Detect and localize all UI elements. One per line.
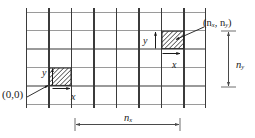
origin-x-axis-label: x xyxy=(71,92,75,102)
nx-dimension-label: nx xyxy=(124,113,132,124)
origin-coordinate-label: (0,0) xyxy=(2,89,23,100)
origin-leader-line xyxy=(27,86,48,98)
ny-dimension-line xyxy=(221,31,236,87)
grid-vertical-lines xyxy=(27,8,206,108)
corner-coordinate-label: (nx, ny) xyxy=(203,18,232,29)
corner-y-axis-label: y xyxy=(143,36,147,46)
corner-x-axis-label: x xyxy=(172,60,176,70)
corner-cell xyxy=(162,31,184,48)
origin-y-axis-label: y xyxy=(42,68,46,78)
ny-dimension-label: ny xyxy=(236,60,244,71)
figure-container: (0,0) (nx, ny) nx ny y x y x xyxy=(0,0,255,138)
